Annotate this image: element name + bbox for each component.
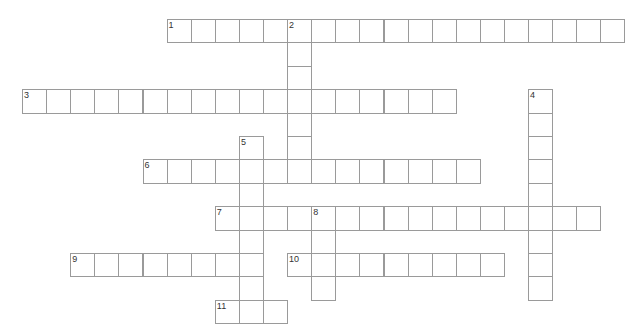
crossword-cell[interactable] (263, 159, 288, 183)
crossword-cell[interactable] (359, 159, 384, 183)
crossword-cell[interactable] (384, 206, 409, 230)
crossword-cell[interactable] (191, 253, 216, 277)
crossword-cell[interactable]: 2 (287, 19, 312, 43)
crossword-cell[interactable] (191, 159, 216, 183)
crossword-cell[interactable] (167, 159, 192, 183)
crossword-cell[interactable] (456, 159, 481, 183)
crossword-cell[interactable] (408, 89, 433, 113)
crossword-cell[interactable]: 7 (215, 206, 240, 230)
crossword-cell[interactable] (408, 253, 433, 277)
crossword-cell[interactable] (528, 230, 553, 254)
crossword-cell[interactable] (167, 253, 192, 277)
crossword-cell[interactable] (94, 89, 119, 113)
crossword-cell[interactable] (359, 19, 384, 43)
crossword-cell[interactable] (215, 159, 240, 183)
crossword-cell[interactable]: 4 (528, 89, 553, 113)
crossword-cell[interactable] (480, 19, 505, 43)
crossword-cell[interactable] (215, 253, 240, 277)
crossword-cell[interactable] (384, 19, 409, 43)
crossword-cell[interactable] (528, 206, 553, 230)
crossword-cell[interactable]: 1 (167, 19, 192, 43)
crossword-cell[interactable] (432, 159, 457, 183)
crossword-cell[interactable] (94, 253, 119, 277)
crossword-cell[interactable] (239, 159, 264, 183)
crossword-cell[interactable] (215, 89, 240, 113)
crossword-cell[interactable] (287, 159, 312, 183)
crossword-cell[interactable] (528, 183, 553, 207)
crossword-cell[interactable] (408, 206, 433, 230)
crossword-cell[interactable] (287, 136, 312, 160)
crossword-cell[interactable] (263, 19, 288, 43)
crossword-cell[interactable] (528, 253, 553, 277)
crossword-cell[interactable] (504, 206, 529, 230)
crossword-cell[interactable] (118, 89, 143, 113)
crossword-cell[interactable] (504, 19, 529, 43)
crossword-cell[interactable] (432, 253, 457, 277)
crossword-cell[interactable]: 6 (143, 159, 168, 183)
crossword-cell[interactable] (239, 89, 264, 113)
crossword-cell[interactable] (239, 183, 264, 207)
crossword-cell[interactable]: 8 (311, 206, 336, 230)
crossword-cell[interactable] (311, 230, 336, 254)
crossword-cell[interactable] (359, 253, 384, 277)
crossword-cell[interactable] (143, 89, 168, 113)
crossword-cell[interactable] (263, 300, 288, 324)
crossword-cell[interactable] (191, 19, 216, 43)
crossword-cell[interactable] (287, 89, 312, 113)
crossword-cell[interactable] (191, 89, 216, 113)
crossword-cell[interactable] (239, 300, 264, 324)
crossword-cell[interactable] (456, 19, 481, 43)
crossword-cell[interactable] (600, 19, 625, 43)
crossword-cell[interactable] (528, 113, 553, 137)
crossword-cell[interactable] (118, 253, 143, 277)
crossword-cell[interactable] (143, 253, 168, 277)
crossword-cell[interactable] (311, 253, 336, 277)
crossword-cell[interactable] (311, 19, 336, 43)
crossword-cell[interactable]: 5 (239, 136, 264, 160)
crossword-cell[interactable]: 3 (22, 89, 47, 113)
crossword-cell[interactable] (576, 206, 601, 230)
crossword-cell[interactable] (287, 66, 312, 90)
crossword-cell[interactable] (576, 19, 601, 43)
crossword-cell[interactable] (359, 206, 384, 230)
crossword-cell[interactable] (384, 159, 409, 183)
crossword-cell[interactable] (528, 136, 553, 160)
crossword-cell[interactable] (239, 19, 264, 43)
crossword-cell[interactable] (384, 253, 409, 277)
crossword-cell[interactable] (287, 113, 312, 137)
crossword-cell[interactable] (239, 230, 264, 254)
crossword-cell[interactable] (552, 206, 577, 230)
crossword-cell[interactable] (215, 19, 240, 43)
crossword-cell[interactable] (70, 89, 95, 113)
crossword-cell[interactable]: 10 (287, 253, 312, 277)
crossword-cell[interactable] (408, 159, 433, 183)
crossword-cell[interactable] (287, 206, 312, 230)
crossword-cell[interactable] (311, 89, 336, 113)
crossword-cell[interactable] (480, 206, 505, 230)
crossword-cell[interactable] (335, 159, 360, 183)
crossword-cell[interactable] (167, 89, 192, 113)
crossword-cell[interactable] (456, 253, 481, 277)
crossword-cell[interactable] (263, 206, 288, 230)
crossword-cell[interactable] (239, 206, 264, 230)
crossword-cell[interactable] (432, 19, 457, 43)
crossword-cell[interactable] (408, 19, 433, 43)
crossword-cell[interactable] (480, 253, 505, 277)
crossword-cell[interactable] (239, 276, 264, 300)
crossword-cell[interactable] (311, 276, 336, 300)
crossword-cell[interactable] (432, 89, 457, 113)
crossword-cell[interactable] (528, 159, 553, 183)
crossword-cell[interactable] (287, 42, 312, 66)
crossword-cell[interactable] (359, 89, 384, 113)
crossword-cell[interactable] (528, 19, 553, 43)
crossword-cell[interactable] (456, 206, 481, 230)
crossword-cell[interactable] (528, 276, 553, 300)
crossword-cell[interactable] (335, 206, 360, 230)
crossword-cell[interactable] (384, 89, 409, 113)
crossword-cell[interactable] (335, 19, 360, 43)
crossword-cell[interactable] (335, 89, 360, 113)
crossword-cell[interactable] (263, 89, 288, 113)
crossword-cell[interactable] (311, 159, 336, 183)
crossword-cell[interactable]: 11 (215, 300, 240, 324)
crossword-cell[interactable]: 9 (70, 253, 95, 277)
